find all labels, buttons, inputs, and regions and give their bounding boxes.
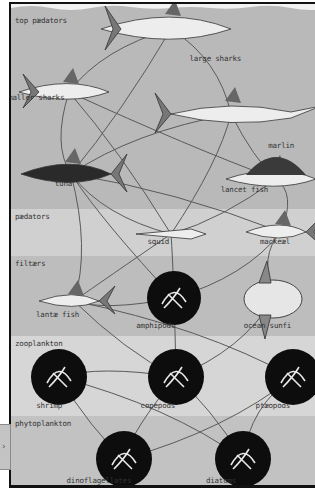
shrimp-icon <box>31 349 87 405</box>
label-squid: squid <box>148 237 170 246</box>
label-marlin: marlin <box>268 141 294 150</box>
food-web-link <box>171 114 231 234</box>
copepods-icon <box>148 349 204 405</box>
label-mackerel: mackeæl <box>260 237 290 246</box>
smaller-sharks-icon <box>19 68 109 108</box>
label-shrimp: shrimp <box>36 401 62 410</box>
label-smaller-sharks: smaller sharks <box>9 93 64 102</box>
food-web-links <box>11 4 315 488</box>
food-web-link <box>71 174 82 301</box>
label-lantern-fish: lantæ fish <box>36 310 79 319</box>
pteropods-icon <box>265 349 315 405</box>
side-panel-tab[interactable]: › <box>0 424 11 470</box>
label-amphipods: amphipods <box>136 321 175 330</box>
food-web-link <box>71 29 171 174</box>
label-copepods: copepods <box>141 401 176 410</box>
amphipods-icon <box>147 271 201 325</box>
label-diatoms: diatoms <box>206 476 236 485</box>
label-dinoflagellates: dinoflagellates <box>67 476 132 485</box>
food-web-link <box>171 29 231 114</box>
squid-icon <box>136 229 206 239</box>
label-ocean-sunfish: ocean sunfi <box>244 321 291 330</box>
food-web-diagram: top pædatorspædatorsfiltærszooplanktonph… <box>9 2 315 488</box>
large-sharks-icon <box>101 4 231 50</box>
label-pteropods: ptæopods <box>256 401 291 410</box>
label-tuna: tuna <box>55 179 72 188</box>
label-lancet-fish: lancet fish <box>221 185 268 194</box>
label-large-sharks: large sharks <box>189 54 241 63</box>
chevron-right-icon: › <box>1 441 6 451</box>
lantern-fish-icon <box>39 280 115 314</box>
food-web-link <box>69 92 276 179</box>
